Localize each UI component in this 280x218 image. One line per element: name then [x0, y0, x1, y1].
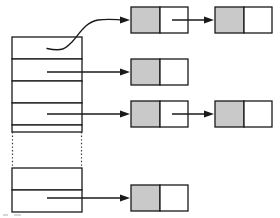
hash-table-chaining-diagram [0, 0, 280, 218]
chain-1-node-0-key-cell[interactable] [131, 59, 160, 85]
chain-3-node-1-key-cell[interactable] [215, 101, 244, 127]
chain-1-node-0[interactable] [131, 59, 188, 85]
chain-0-node-1[interactable] [215, 7, 272, 33]
bucket-slot-2[interactable] [12, 81, 82, 103]
chain-0 [131, 7, 272, 33]
pointer-bucket-0-arrowhead [120, 16, 130, 23]
bucket-array-ellipsis [13, 132, 82, 168]
bucket-slot-6[interactable] [12, 190, 82, 212]
scan-specks [3, 214, 21, 216]
chain-3-node-1-next-cell[interactable] [244, 101, 272, 127]
pointer-bucket-6-arrowhead [120, 194, 130, 201]
chain-6-node-0[interactable] [131, 185, 188, 211]
scan-speck-2 [14, 214, 21, 216]
chain-3-node-1[interactable] [215, 101, 272, 127]
chain-3 [131, 101, 272, 127]
diagram-canvas [0, 0, 280, 218]
chain-3-node-0-key-cell[interactable] [131, 101, 160, 127]
chain-0-link-0-arrowhead [204, 16, 214, 23]
chain-6 [131, 185, 188, 211]
chain-0-node-1-key-cell[interactable] [215, 7, 244, 33]
chain-0-node-0-key-cell[interactable] [131, 7, 160, 33]
bucket-slot-5[interactable] [12, 168, 82, 190]
chain-3-link-0-arrowhead [204, 110, 214, 117]
chain-6-node-0-next-cell[interactable] [160, 185, 188, 211]
chain-1 [131, 59, 188, 85]
scan-speck-1 [3, 214, 8, 216]
bucket-array [12, 37, 82, 212]
bucket-slot-4-partial[interactable] [12, 125, 82, 132]
chain-6-node-0-key-cell[interactable] [131, 185, 160, 211]
pointer-bucket-1-arrowhead [120, 68, 130, 75]
bucket-slot-1[interactable] [12, 59, 82, 81]
pointer-bucket-3-arrowhead [120, 110, 130, 117]
chain-1-node-0-next-cell[interactable] [160, 59, 188, 85]
chain-0-node-1-next-cell[interactable] [244, 7, 272, 33]
